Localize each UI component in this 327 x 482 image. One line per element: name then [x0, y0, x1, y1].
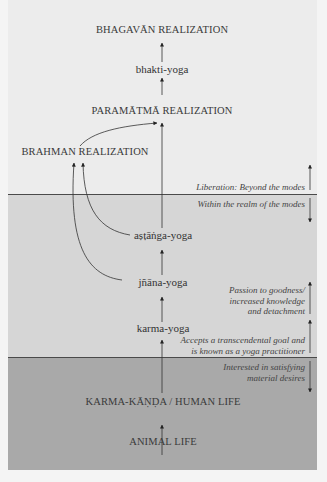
note-passion: Passion to goodness/ increased knowledge… [229, 285, 305, 317]
stage-karma-yoga: karma-yoga [137, 322, 190, 334]
stage-karma-kanda-human-life: KARMA-KĀṆḌA / HUMAN LIFE [86, 396, 241, 407]
stage-astanga-yoga: aṣṭāṅga-yoga [134, 229, 192, 241]
stage-brahman-realization: BRAHMAN REALIZATION [21, 146, 148, 157]
note-passion-line2: increased knowledge [229, 296, 305, 307]
note-liberation: Liberation: Beyond the modes [196, 182, 305, 193]
stage-bhagavan-realization: BHAGAVĀN REALIZATION [96, 24, 228, 35]
note-interested-line1: Interested in satisfying [223, 362, 305, 373]
curve-astanga-to-brahman [83, 163, 130, 235]
note-accepts: Accepts a transcendental goal and is kno… [181, 335, 305, 356]
note-interested: Interested in satisfying material desire… [223, 362, 305, 383]
note-accepts-line2: is known as a yoga practitioner [181, 346, 305, 357]
note-passion-line1: Passion to goodness/ [229, 285, 305, 296]
stage-jnana-yoga: jñāna-yoga [139, 276, 188, 288]
note-passion-line3: and detachment [229, 306, 305, 317]
note-accepts-line1: Accepts a transcendental goal and [181, 335, 305, 346]
stage-animal-life: ANIMAL LIFE [129, 436, 197, 447]
note-interested-line2: material desires [223, 373, 305, 384]
curve-brahman-to-paramatma [80, 123, 157, 146]
stage-paramatma-realization: PARAMĀTMĀ REALIZATION [92, 105, 233, 116]
curve-jnana-to-brahman [73, 163, 122, 280]
stage-bhakti-yoga: bhakti-yoga [136, 63, 189, 75]
note-within-modes: Within the realm of the modes [198, 199, 305, 210]
